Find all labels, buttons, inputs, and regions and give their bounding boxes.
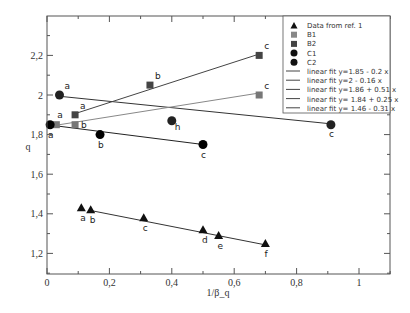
legend-label: C2: [307, 59, 316, 67]
triangle-marker: [86, 205, 95, 213]
fit-line: [91, 211, 266, 245]
point-label: c: [329, 129, 334, 139]
y-tick-label: 1,6: [31, 169, 44, 180]
circle-marker: [199, 140, 208, 149]
square-marker: [72, 121, 79, 128]
y-tick-label: 1,8: [31, 129, 44, 140]
legend-label: C1: [307, 50, 316, 58]
legend: Data from ref. 1B1B2C1C2linear fit y=1.8…: [283, 16, 399, 113]
square-marker: [72, 111, 79, 118]
square-marker: [256, 52, 263, 59]
point-label: b: [98, 140, 104, 150]
legend-square-icon: [291, 41, 297, 47]
point-label: b: [81, 120, 87, 130]
point-label: a: [80, 213, 86, 223]
point-label: h: [175, 122, 181, 132]
square-marker: [146, 82, 153, 89]
point-label: a: [80, 101, 86, 111]
triangle-marker: [139, 213, 148, 221]
point-label: c: [143, 223, 148, 233]
chart: abcdefabcabcabcahc 00,20,40,60,81 1,21,4…: [0, 0, 410, 313]
circle-marker: [96, 130, 105, 139]
legend-label: linear fit y= 1.46 - 0.31 x: [307, 105, 395, 113]
legend-label: linear fit y=1.86 + 0.51 x: [307, 86, 396, 94]
point-label: b: [90, 215, 96, 225]
triangle-marker: [77, 203, 86, 211]
legend-label: linear fit y=1.85 - 0.2 x: [307, 68, 388, 76]
x-tick-label: 0: [45, 277, 50, 288]
y-tick-label: 2: [38, 90, 43, 101]
x-tick-label: 0,4: [166, 277, 179, 288]
point-label: c: [264, 41, 269, 51]
x-axis-title: 1/β_q: [207, 287, 230, 298]
point-label: a: [64, 81, 70, 91]
legend-label: B1: [307, 31, 316, 39]
x-tick-label: 1: [357, 277, 362, 288]
square-marker: [256, 92, 263, 99]
x-tick-label: 0,6: [228, 277, 241, 288]
point-label: f: [264, 249, 268, 259]
point-label: b: [155, 71, 161, 81]
triangle-marker: [199, 225, 208, 233]
point-label: a: [57, 110, 63, 120]
legend-square-icon: [291, 32, 297, 38]
legend-circle-icon: [291, 50, 298, 57]
x-tick-label: 0,2: [103, 277, 116, 288]
point-label: e: [218, 241, 224, 251]
legend-label: Data from ref. 1: [307, 22, 362, 30]
y-tick-label: 1,4: [31, 208, 44, 219]
triangle-marker: [261, 239, 270, 247]
y-axis-title: q: [26, 141, 31, 152]
point-label: c: [264, 81, 269, 91]
y-tick-label: 1,2: [31, 248, 44, 259]
point-label: d: [202, 235, 208, 245]
fit-line: [75, 54, 259, 114]
legend-label: B2: [307, 40, 316, 48]
legend-label: linear fit y= 1.84 + 0.25 x: [307, 96, 399, 104]
x-tick-label: 0,8: [290, 277, 303, 288]
y-tick-label: 2,2: [31, 50, 44, 61]
circle-marker: [55, 91, 64, 100]
legend-label: linear fit y=2 - 0.16 x: [307, 77, 382, 85]
point-label: c: [201, 150, 206, 160]
legend-circle-icon: [291, 59, 298, 66]
